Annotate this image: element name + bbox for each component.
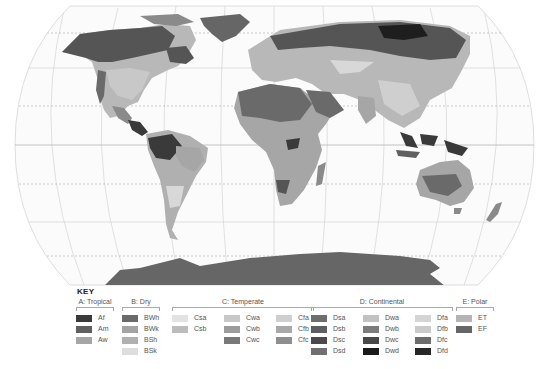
group-bracket	[311, 307, 453, 311]
color-swatch	[363, 337, 379, 344]
key-item-label: Am	[98, 325, 114, 333]
key-item-am: Am	[76, 325, 114, 333]
key-item-cfa: Cfa	[276, 314, 314, 322]
color-swatch	[415, 315, 431, 322]
key-item-dwb: Dwb	[363, 325, 401, 333]
color-swatch	[172, 315, 188, 322]
color-swatch	[76, 326, 92, 333]
key-item-bwk: BWk	[122, 325, 160, 333]
key-item-bsk: BSk	[122, 347, 160, 355]
key-item-label: ET	[478, 314, 494, 322]
color-swatch	[122, 326, 138, 333]
key-item-dwa: Dwa	[363, 314, 401, 322]
key-item-dsd: Dsd	[311, 347, 349, 355]
key-item-ef: EF	[456, 325, 494, 333]
key-item-label: Cwb	[246, 325, 262, 333]
key-item-label: Dwb	[385, 325, 401, 333]
color-swatch	[224, 326, 240, 333]
key-item-label: Dsa	[333, 314, 349, 322]
color-swatch	[311, 315, 327, 322]
color-swatch	[311, 326, 327, 333]
key-column: CsaCsb	[172, 314, 210, 344]
key-item-dfa: Dfa	[415, 314, 453, 322]
key-item-label: BSh	[144, 336, 160, 344]
color-swatch	[122, 315, 138, 322]
key-item-label: Dsc	[333, 336, 349, 344]
key-item-label: Dfd	[437, 347, 453, 355]
color-swatch	[415, 326, 431, 333]
key-item-af: Af	[76, 314, 114, 322]
key-item-cwc: Cwc	[224, 336, 262, 344]
key-group-polar: E: Polar ETEF	[456, 297, 494, 333]
color-swatch	[224, 315, 240, 322]
key-item-bsh: BSh	[122, 336, 160, 344]
group-bracket	[172, 307, 314, 311]
group-bracket	[456, 307, 494, 311]
color-swatch	[311, 348, 327, 355]
key-item-dsa: Dsa	[311, 314, 349, 322]
color-swatch	[276, 337, 292, 344]
key-item-label: Csa	[194, 314, 210, 322]
key-item-aw: Aw	[76, 336, 114, 344]
key-item-label: Cwa	[246, 314, 262, 322]
key-item-cfb: Cfb	[276, 325, 314, 333]
color-swatch	[76, 315, 92, 322]
group-bracket	[122, 307, 160, 311]
key-item-csb: Csb	[172, 325, 210, 333]
color-swatch	[122, 348, 138, 355]
key-item-label: Dsb	[333, 325, 349, 333]
key-item-label: Dwa	[385, 314, 401, 322]
key-item-label: BWh	[144, 314, 160, 322]
color-swatch	[276, 315, 292, 322]
group-label: E: Polar	[456, 297, 494, 306]
group-label: D: Continental	[311, 297, 453, 306]
key-column: DfaDfbDfcDfd	[415, 314, 453, 355]
key-item-label: BWk	[144, 325, 160, 333]
color-swatch	[311, 337, 327, 344]
key-item-label: Dsd	[333, 347, 349, 355]
key-item-dwd: Dwd	[363, 347, 401, 355]
key-column: CfaCfbCfc	[276, 314, 314, 344]
group-label: C: Temperate	[172, 297, 314, 306]
key-column: AfAmAw	[76, 314, 114, 344]
key-group-dry: B: Dry BWhBWkBShBSk	[122, 297, 160, 355]
key-item-dfc: Dfc	[415, 336, 453, 344]
key-item-dwc: Dwc	[363, 336, 401, 344]
key-item-label: EF	[478, 325, 494, 333]
color-swatch	[276, 326, 292, 333]
key-column: BWhBWkBShBSk	[122, 314, 160, 355]
key-item-bwh: BWh	[122, 314, 160, 322]
color-swatch	[122, 337, 138, 344]
group-label: A: Tropical	[76, 297, 114, 306]
color-swatch	[76, 337, 92, 344]
key-item-dfb: Dfb	[415, 325, 453, 333]
key-item-et: ET	[456, 314, 494, 322]
key-group-continental: D: Continental DsaDsbDscDsdDwaDwbDwcDwdD…	[311, 297, 453, 355]
world-climate-map	[0, 0, 548, 290]
color-swatch	[363, 348, 379, 355]
color-swatch	[363, 315, 379, 322]
key-item-label: Af	[98, 314, 114, 322]
color-swatch	[415, 337, 431, 344]
key-group-temperate: C: Temperate CsaCsbCwaCwbCwcCfaCfbCfc	[172, 297, 314, 344]
key-group-tropical: A: Tropical AfAmAw	[76, 297, 114, 344]
color-swatch	[415, 348, 431, 355]
color-swatch	[224, 337, 240, 344]
key-item-cfc: Cfc	[276, 336, 314, 344]
color-swatch	[456, 326, 472, 333]
key-title: KEY	[77, 287, 94, 296]
key-item-label: Dfb	[437, 325, 453, 333]
key-column: DwaDwbDwcDwd	[363, 314, 401, 355]
key-item-dsc: Dsc	[311, 336, 349, 344]
key-item-label: Dfc	[437, 336, 453, 344]
key-item-label: BSk	[144, 347, 160, 355]
color-swatch	[172, 326, 188, 333]
key-item-label: Dwd	[385, 347, 401, 355]
key-item-csa: Csa	[172, 314, 210, 322]
key-item-dfd: Dfd	[415, 347, 453, 355]
key-item-label: Csb	[194, 325, 210, 333]
key-item-label: Dwc	[385, 336, 401, 344]
group-label: B: Dry	[122, 297, 160, 306]
key-item-label: Cwc	[246, 336, 262, 344]
key-item-cwa: Cwa	[224, 314, 262, 322]
